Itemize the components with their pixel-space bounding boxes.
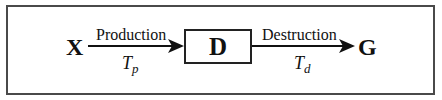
node-x: X [66, 35, 83, 59]
destruction-rate: Td [294, 54, 311, 75]
production-rate: Tp [122, 54, 139, 75]
node-d-box: D [184, 29, 252, 64]
destruction-label: Destruction [262, 27, 337, 43]
destruction-rate-symbol: T [294, 53, 304, 73]
node-g: G [358, 35, 377, 59]
production-rate-symbol: T [122, 53, 132, 73]
production-rate-subscript: p [132, 61, 139, 76]
production-label: Production [96, 27, 166, 43]
node-d: D [209, 33, 227, 61]
destruction-rate-subscript: d [304, 61, 311, 76]
